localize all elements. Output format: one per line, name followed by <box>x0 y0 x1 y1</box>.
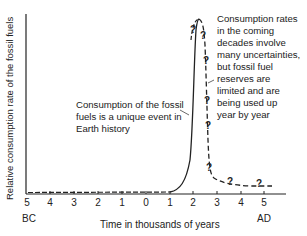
annotation-projection: Consumption rates in the coming decades … <box>217 13 300 121</box>
x-axis-label: Time in thousands of years <box>100 219 220 230</box>
uncertainty-mark: ? <box>256 178 262 189</box>
uncertainty-mark: ? <box>203 55 209 66</box>
uncertainty-mark: ? <box>206 162 212 173</box>
x-tick-label: 5 <box>258 197 270 208</box>
annotation-historical: Consumption of the fossil fuels is a uni… <box>76 99 184 135</box>
ad-label: AD <box>257 213 271 224</box>
x-tick-label: 4 <box>44 197 56 208</box>
x-tick-label: 3 <box>68 197 80 208</box>
x-tick-label: 1 <box>116 197 128 208</box>
uncertainty-mark: ? <box>205 120 211 131</box>
right-annotation-leader <box>208 80 214 83</box>
x-tick-label: 2 <box>187 197 199 208</box>
y-axis-label: Relative consumption rate of the fossil … <box>4 17 15 200</box>
bc-label: BC <box>22 213 36 224</box>
historical-baseline-line <box>28 192 170 193</box>
x-tick-label: 3 <box>211 197 223 208</box>
uncertainty-mark: ? <box>190 24 196 35</box>
uncertainty-mark: ? <box>227 176 233 187</box>
x-tick-label: 1 <box>164 197 176 208</box>
uncertainty-mark: ? <box>204 95 210 106</box>
x-tick-label: 0 <box>140 197 152 208</box>
x-tick-label: 5 <box>21 197 33 208</box>
x-tick-label: 4 <box>235 197 247 208</box>
x-tick-label: 2 <box>92 197 104 208</box>
uncertainty-mark: ? <box>200 30 206 41</box>
fossil-fuel-consumption-chart: Relative consumption rate of the fossil … <box>0 0 307 236</box>
